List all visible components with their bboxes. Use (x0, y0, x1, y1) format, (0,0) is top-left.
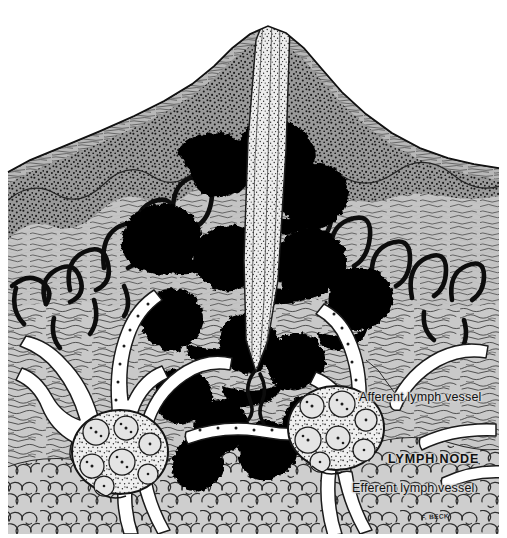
afferent-lymph-vessel-label: Afferent lymph vessel (359, 390, 481, 404)
artist-signature: F. BECK (421, 512, 449, 520)
lymph-node-label: LYMPH NODE (388, 452, 479, 466)
efferent-lymph-vessel-label: Efferent lymph vessel (352, 481, 474, 495)
anatomical-illustration: Afferent lymph vessel LYMPH NODE Efferen… (0, 0, 507, 538)
splinter-cut-end (268, 9, 284, 16)
